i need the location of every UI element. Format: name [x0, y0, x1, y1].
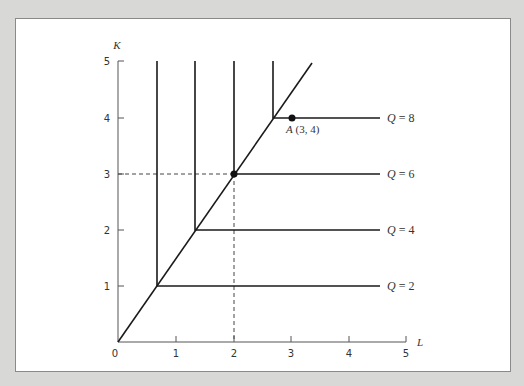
isoquant-chart: 0 1 2 3 4 5 1 2 3 4 5 K L A (3, 4) Q = 8…: [0, 0, 524, 386]
y-tick-4: 4: [104, 113, 110, 124]
x-tick-2: 2: [231, 348, 237, 359]
x-tick-4: 4: [346, 348, 352, 359]
label-q2: Q = 2: [387, 279, 414, 293]
x-tick-5: 5: [403, 348, 409, 359]
y-tick-1: 1: [104, 281, 110, 292]
y-tick-5: 5: [104, 56, 110, 67]
origin-label: 0: [112, 348, 118, 359]
axes: [118, 61, 406, 342]
expansion-ray: [118, 63, 312, 342]
y-tick-2: 2: [104, 225, 110, 236]
isoquant-q4: [195, 61, 380, 230]
label-q4: Q = 4: [387, 223, 414, 237]
x-tick-3: 3: [288, 348, 294, 359]
y-axis-label: K: [112, 39, 121, 51]
label-q8: Q = 8: [387, 111, 414, 125]
label-q6: Q = 6: [387, 167, 414, 181]
point-a: [289, 115, 296, 122]
x-tick-1: 1: [173, 348, 179, 359]
point-a-label: A (3, 4): [285, 123, 320, 136]
y-tick-3: 3: [104, 169, 110, 180]
point-2-3: [231, 171, 238, 178]
isoquant-q8: [273, 61, 380, 118]
x-axis-label: L: [416, 336, 423, 348]
